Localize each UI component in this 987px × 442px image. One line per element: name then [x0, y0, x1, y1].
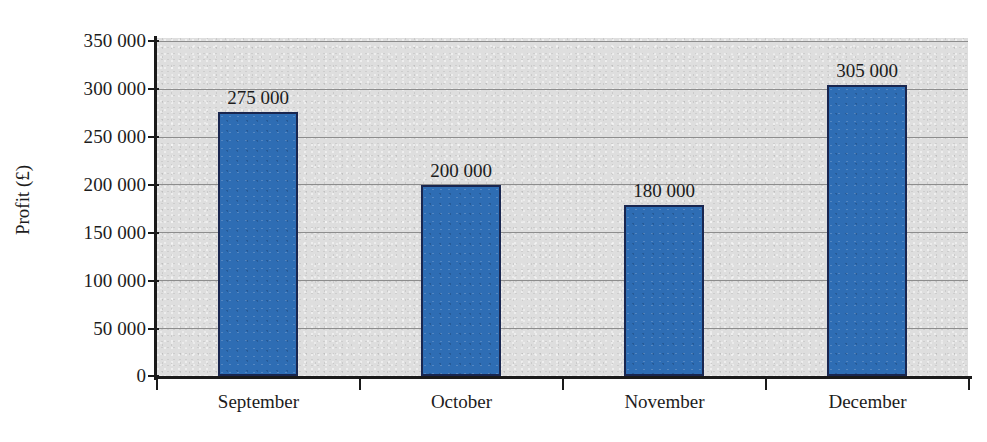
- x-label-september: September: [157, 392, 360, 412]
- y-tick-label-100000: 100 000: [46, 271, 146, 290]
- x-tick-october: [562, 379, 564, 390]
- y-tick-50000: [148, 328, 159, 330]
- y-tick-label-300000: 300 000: [46, 79, 146, 98]
- y-tick-label-0: 0: [46, 366, 146, 385]
- bar-value-november: 180 000: [604, 181, 724, 201]
- bar-value-october: 200 000: [401, 161, 521, 181]
- y-tick-label-200000: 200 000: [46, 175, 146, 194]
- x-label-december: December: [766, 392, 969, 412]
- x-tick-december: [968, 379, 970, 390]
- bar-november: [624, 205, 704, 376]
- y-axis-tick-labels: 350 000 300 000 250 000 200 000 150 000 …: [36, 0, 146, 442]
- y-tick-label-250000: 250 000: [46, 127, 146, 146]
- x-tick-start: [156, 379, 158, 390]
- y-tick-label-150000: 150 000: [46, 223, 146, 242]
- x-tick-november: [765, 379, 767, 390]
- y-tick-250000: [148, 136, 159, 138]
- x-label-october: October: [360, 392, 563, 412]
- y-tick-0: [148, 375, 159, 377]
- y-tick-350000: [148, 40, 159, 42]
- y-tick-label-50000: 50 000: [46, 319, 146, 338]
- y-tick-300000: [148, 88, 159, 90]
- bar-september: [218, 112, 298, 376]
- gridline-350000: [157, 41, 968, 42]
- bar-value-december: 305 000: [807, 61, 927, 81]
- bar-october: [421, 185, 501, 376]
- x-tick-september: [359, 379, 361, 390]
- bar-december: [827, 85, 907, 376]
- bar-chart: 350 000 300 000 250 000 200 000 150 000 …: [0, 0, 987, 442]
- y-tick-100000: [148, 280, 159, 282]
- x-label-november: November: [563, 392, 766, 412]
- y-tick-150000: [148, 232, 159, 234]
- bar-value-september: 275 000: [198, 88, 318, 108]
- y-axis-title: Profit (£): [12, 120, 34, 280]
- y-tick-label-350000: 350 000: [46, 31, 146, 50]
- y-tick-200000: [148, 184, 159, 186]
